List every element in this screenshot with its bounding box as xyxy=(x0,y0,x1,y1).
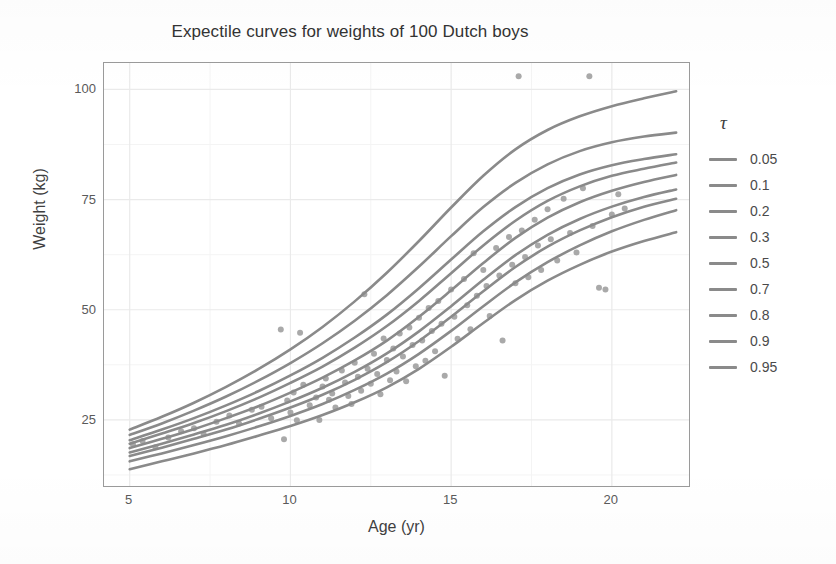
chart-title: Expectile curves for weights of 100 Dutc… xyxy=(0,22,700,42)
legend-item[interactable]: 0.2 xyxy=(706,198,826,224)
y-tick-label: 25 xyxy=(56,411,96,426)
legend-line-icon xyxy=(706,306,740,324)
legend-line-icon xyxy=(706,254,740,272)
legend-item[interactable]: 0.3 xyxy=(706,224,826,250)
legend-item-label: 0.95 xyxy=(750,359,777,375)
legend-item[interactable]: 0.8 xyxy=(706,302,826,328)
x-tick-label: 5 xyxy=(109,492,149,507)
legend-item-label: 0.8 xyxy=(750,307,769,323)
legend-item-label: 0.1 xyxy=(750,177,769,193)
legend-item-label: 0.5 xyxy=(750,255,769,271)
legend-line-icon xyxy=(706,202,740,220)
y-axis-title: Weight (kg) xyxy=(31,109,49,309)
curve-tau-0.5 xyxy=(130,175,676,448)
x-tick-label: 15 xyxy=(430,492,470,507)
legend-line-icon xyxy=(706,332,740,350)
y-tick-label: 75 xyxy=(56,191,96,206)
legend-item[interactable]: 0.05 xyxy=(706,146,826,172)
legend-item[interactable]: 0.1 xyxy=(706,172,826,198)
legend-item[interactable]: 0.5 xyxy=(706,250,826,276)
plot-panel xyxy=(103,62,690,487)
curve-tau-0.3 xyxy=(130,189,676,452)
legend-item-label: 0.9 xyxy=(750,333,769,349)
legend-line-icon xyxy=(706,358,740,376)
legend-line-icon xyxy=(706,228,740,246)
legend-entries: 0.050.10.20.30.50.70.80.90.95 xyxy=(706,146,826,380)
x-axis-title: Age (yr) xyxy=(103,518,690,536)
legend-line-icon xyxy=(706,176,740,194)
legend-item[interactable]: 0.95 xyxy=(706,354,826,380)
chart-figure: Expectile curves for weights of 100 Dutc… xyxy=(0,0,836,564)
x-axis-tick-labels: 5101520 xyxy=(0,492,836,512)
curve-tau-0.9 xyxy=(130,133,676,435)
x-tick-label: 20 xyxy=(591,492,631,507)
x-tick-label: 10 xyxy=(269,492,309,507)
scatter-points xyxy=(130,73,628,450)
expectile-curves xyxy=(130,91,676,469)
legend-title: τ xyxy=(720,112,826,134)
legend-line-icon xyxy=(706,150,740,168)
y-axis-tick-labels: 255075100 xyxy=(52,0,96,564)
legend-item-label: 0.05 xyxy=(750,151,777,167)
legend-item-label: 0.2 xyxy=(750,203,769,219)
legend: τ 0.050.10.20.30.50.70.80.90.95 xyxy=(706,112,826,380)
legend-item-label: 0.7 xyxy=(750,281,769,297)
y-tick-label: 50 xyxy=(56,301,96,316)
legend-line-icon xyxy=(706,280,740,298)
legend-item-label: 0.3 xyxy=(750,229,769,245)
y-tick-label: 100 xyxy=(56,81,96,96)
plot-canvas xyxy=(104,63,689,486)
legend-item[interactable]: 0.7 xyxy=(706,276,826,302)
legend-item[interactable]: 0.9 xyxy=(706,328,826,354)
